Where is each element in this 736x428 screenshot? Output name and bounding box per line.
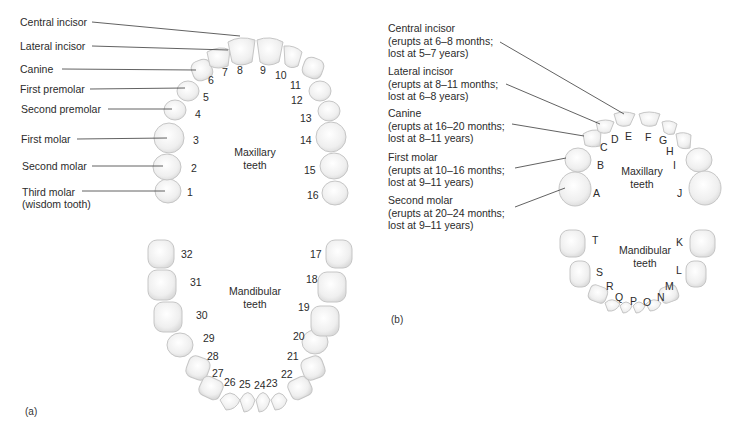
callout-line: Lateral incisor	[388, 65, 498, 78]
panel-label-a: (a)	[25, 406, 37, 417]
tooth-letter-J: J	[677, 187, 682, 199]
deciduous-mandibular-title: Mandibular teeth	[608, 244, 682, 270]
tooth-number-11: 11	[290, 79, 301, 91]
tooth-S	[570, 261, 590, 287]
tooth-C	[583, 130, 601, 147]
callout-wisdom-tooth: (wisdom tooth)	[22, 198, 91, 211]
tooth-number-17: 17	[310, 248, 322, 260]
tooth-number-10: 10	[275, 69, 287, 81]
tooth-12	[309, 81, 331, 101]
tooth-11	[300, 55, 326, 81]
maxillary-title-line1: Maxillary	[225, 146, 285, 159]
panel-label-b: (b)	[391, 314, 403, 325]
tooth-number-4: 4	[195, 108, 201, 120]
tooth-13	[318, 101, 340, 121]
tooth-letter-O: O	[643, 296, 651, 308]
tooth-number-1: 1	[187, 186, 193, 198]
callout-line: lost at 9–11 years)	[388, 219, 505, 232]
tooth-number-14: 14	[300, 134, 312, 146]
tooth-letter-F: F	[645, 131, 651, 143]
tooth-19	[311, 306, 339, 336]
tooth-H	[676, 133, 691, 149]
tooth-number-24: 24	[254, 379, 266, 391]
tooth-25	[240, 393, 255, 413]
tooth-letter-C: C	[600, 141, 608, 153]
tooth-I	[686, 148, 712, 172]
dentition-diagram	[0, 0, 736, 428]
tooth-A	[559, 172, 591, 206]
tooth-9	[257, 38, 283, 65]
callout-canine: Canine	[20, 63, 53, 76]
tooth-number-6: 6	[208, 74, 214, 86]
tooth-number-8: 8	[237, 64, 243, 76]
callout-line: Canine	[388, 107, 505, 120]
callout-line: lost at 8–11 years)	[388, 132, 505, 145]
callout-lateral-incisor: Lateral incisor	[20, 40, 85, 53]
callout-line: First molar	[388, 151, 505, 164]
tooth-26	[220, 393, 240, 410]
tooth-letter-D: D	[611, 133, 619, 145]
tooth-letter-M: M	[665, 280, 674, 292]
callout-deciduous-first-molar: First molar (erupts at 10–16 months; los…	[388, 151, 505, 189]
tooth-number-28: 28	[207, 350, 219, 362]
tooth-letter-Q: Q	[615, 291, 623, 303]
tooth-number-3: 3	[193, 134, 199, 146]
tooth-29	[167, 333, 193, 357]
tooth-number-21: 21	[287, 350, 299, 362]
callout-line: Central incisor	[388, 22, 493, 35]
tooth-4	[164, 100, 186, 120]
tooth-number-30: 30	[196, 309, 208, 321]
tooth-B	[565, 148, 591, 172]
callout-line: (erupts at 16–20 months;	[388, 120, 505, 133]
mandibular-title-line2: teeth	[608, 257, 682, 270]
tooth-F	[639, 112, 660, 126]
callout-line: (erupts at 6–8 months;	[388, 35, 493, 48]
callout-line: Second molar	[388, 194, 505, 207]
deciduous-mandibular-arch	[560, 230, 715, 313]
tooth-T	[560, 230, 585, 257]
tooth-10	[284, 46, 302, 68]
tooth-number-29: 29	[203, 332, 215, 344]
tooth-5	[177, 81, 199, 101]
callout-deciduous-lateral-incisor: Lateral incisor (erupts at 8–11 months; …	[388, 65, 498, 103]
callout-second-molar: Second molar	[22, 160, 87, 173]
callout-line: lost at 5–7 years)	[388, 47, 493, 60]
tooth-letter-L: L	[676, 264, 682, 276]
tooth-number-22: 22	[281, 368, 293, 380]
tooth-23	[271, 393, 287, 410]
callout-line: lost at 9–11 years)	[388, 176, 505, 189]
tooth-letter-P: P	[630, 295, 637, 307]
callout-line: lost at 6–8 years)	[388, 90, 498, 103]
tooth-number-5: 5	[203, 91, 209, 103]
callout-second-premolar: Second premolar	[21, 103, 101, 116]
callout-deciduous-canine: Canine (erupts at 16–20 months; lost at …	[388, 107, 505, 145]
tooth-letter-H: H	[666, 145, 674, 157]
tooth-number-31: 31	[190, 276, 202, 288]
tooth-letter-I: I	[673, 159, 676, 171]
tooth-letter-B: B	[597, 159, 604, 171]
tooth-E	[614, 112, 635, 126]
mandibular-title-line2: teeth	[218, 298, 292, 311]
tooth-number-20: 20	[293, 330, 305, 342]
tooth-number-27: 27	[212, 367, 224, 379]
tooth-17	[326, 240, 352, 268]
tooth-number-9: 9	[260, 64, 266, 76]
tooth-number-13: 13	[300, 112, 312, 124]
tooth-30	[154, 302, 182, 332]
tooth-14	[316, 122, 346, 152]
tooth-letter-E: E	[625, 130, 632, 142]
tooth-number-26: 26	[224, 376, 236, 388]
tooth-number-19: 19	[298, 301, 310, 313]
tooth-L	[686, 261, 706, 287]
tooth-16	[322, 181, 348, 205]
callout-third-molar: Third molar	[22, 186, 75, 199]
tooth-number-7: 7	[222, 66, 228, 78]
permanent-maxillary-arch	[153, 38, 348, 205]
callout-line: (erupts at 8–11 months;	[388, 78, 498, 91]
callout-central-incisor: Central incisor	[20, 16, 87, 29]
tooth-number-2: 2	[191, 162, 197, 174]
callout-first-premolar: First premolar	[20, 83, 85, 96]
maxillary-title-line2: teeth	[225, 159, 285, 172]
tooth-8	[228, 38, 255, 65]
tooth-letter-R: R	[606, 280, 614, 292]
